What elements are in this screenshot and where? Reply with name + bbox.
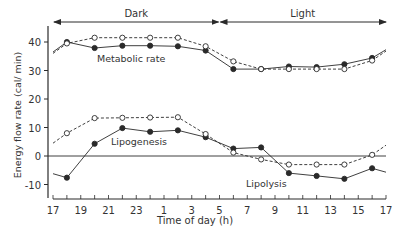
y-tick-label: 40 [28, 37, 41, 48]
x-tick-label: 15 [352, 205, 365, 216]
open-data-point [64, 41, 69, 46]
open-data-point [148, 115, 153, 120]
x-tick-label: 17 [380, 205, 393, 216]
open-data-point [286, 66, 291, 71]
open-data-point [203, 44, 208, 49]
annotation-lipolysis: Lipolysis [246, 178, 287, 189]
y-tick-label: 0 [35, 151, 41, 162]
x-tick-label: 11 [296, 205, 309, 216]
filled-data-point [120, 125, 125, 130]
filled-data-point [120, 43, 125, 48]
x-axis-label: Time of day (h) [156, 215, 233, 226]
open-data-point [286, 162, 291, 167]
open-data-point [148, 35, 153, 40]
open-data-point [92, 115, 97, 120]
open-data-point [370, 58, 375, 63]
y-tick-label: -10 [25, 180, 41, 191]
open-data-point [120, 115, 125, 120]
x-tick-label: 9 [272, 205, 278, 216]
open-data-point [120, 35, 125, 40]
open-data-point [342, 66, 347, 71]
filled-data-point [148, 43, 153, 48]
filled-data-point [231, 66, 236, 71]
x-tick-label: 13 [324, 205, 337, 216]
open-data-point [175, 35, 180, 40]
open-data-point [203, 131, 208, 136]
filled-data-point [286, 171, 291, 176]
chart-canvas: 403020100-10Energy flow rate (cal/ min)1… [0, 0, 404, 234]
open-data-point [64, 131, 69, 136]
y-tick-label: 20 [28, 94, 41, 105]
open-data-point [314, 66, 319, 71]
filled-data-point [64, 175, 69, 180]
open-data-point [175, 115, 180, 120]
y-tick-label: 10 [28, 123, 41, 134]
annotation-lipogenesis: Lipogenesis [111, 136, 167, 147]
open-data-point [231, 150, 236, 155]
y-tick-label: 30 [28, 66, 41, 77]
x-tick-label: 19 [74, 205, 87, 216]
filled-data-point [92, 45, 97, 50]
filled-data-point [370, 166, 375, 171]
open-data-point [259, 66, 264, 71]
open-data-point [342, 162, 347, 167]
series-line [53, 117, 386, 164]
series-line [53, 128, 386, 179]
open-data-point [314, 162, 319, 167]
energy-flow-chart: 403020100-10Energy flow rate (cal/ min)1… [0, 0, 404, 234]
filled-data-point [342, 176, 347, 181]
filled-data-point [175, 44, 180, 49]
annotation-metabolic-rate: Metabolic rate [97, 53, 165, 64]
open-data-point [92, 35, 97, 40]
open-data-point [370, 152, 375, 157]
light-period-label: Light [290, 8, 315, 19]
filled-data-point [259, 145, 264, 150]
filled-data-point [148, 129, 153, 134]
x-tick-label: 21 [102, 205, 115, 216]
y-axis-label: Energy flow rate (cal/ min) [12, 52, 23, 178]
filled-data-point [92, 141, 97, 146]
x-tick-label: 17 [47, 205, 60, 216]
dark-period-label: Dark [124, 8, 148, 19]
open-data-point [259, 157, 264, 162]
x-tick-label: 7 [244, 205, 250, 216]
open-data-point [231, 59, 236, 64]
x-tick-label: 23 [130, 205, 143, 216]
filled-data-point [175, 128, 180, 133]
filled-data-point [314, 173, 319, 178]
